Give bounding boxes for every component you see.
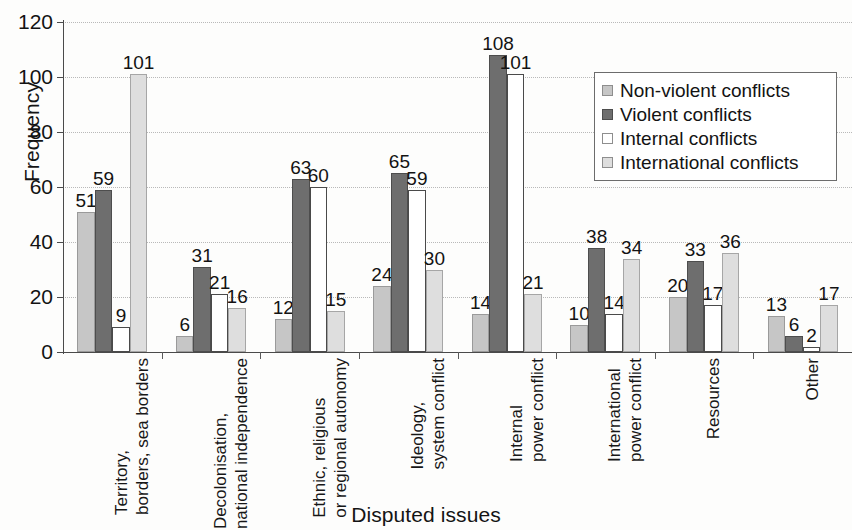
bar [507,74,525,352]
bar [112,327,130,352]
bar-value-label: 13 [759,295,795,314]
bar [704,305,722,352]
x-category-label: Internalpower conflict [458,358,557,508]
legend-swatch-icon [602,109,613,120]
x-category-label-text: Ideology,system conflict [408,358,449,469]
y-tick-label: 20 [0,286,53,307]
bar [605,314,623,353]
bar [391,173,409,352]
bar [524,294,542,352]
x-category-label: Territory,borders, sea borders [63,358,162,508]
bar [130,74,148,352]
bar [228,308,246,352]
y-tick-label: 120 [0,11,53,32]
bar-value-label: 31 [184,246,220,265]
legend-swatch-icon [602,157,613,168]
bar [310,187,328,352]
bar-value-label: 108 [480,34,516,53]
legend-label: Internal conflicts [620,129,757,148]
bar [292,179,310,352]
bar [327,311,345,352]
x-axis-title: Disputed issues [0,503,852,527]
bar [623,259,641,353]
x-category-label-text: Territory,borders, sea borders [112,358,153,515]
legend-swatch-icon [602,133,613,144]
bar [669,297,687,352]
bar-value-label: 101 [498,53,534,72]
bar-value-label: 21 [515,273,551,292]
legend-label: International conflicts [620,153,799,172]
x-category-label: Internationalpower conflict [556,358,655,508]
bar [687,261,705,352]
x-category-label-text: Ethnic, religiousor regional autonomy [310,358,351,518]
y-tick-label: 100 [0,66,53,87]
bar [408,190,426,352]
bar-value-label: 59 [86,169,122,188]
gridline [63,187,852,188]
legend-item[interactable]: Violent conflicts [602,102,830,126]
x-category-label: Ethnic, religiousor regional autonomy [260,358,359,508]
x-category-label-text: Internalpower conflict [507,358,548,462]
bar-value-label: 30 [417,249,453,268]
legend-label: Violent conflicts [620,105,752,124]
bar [77,212,95,352]
bar-value-label: 15 [318,290,354,309]
bar [570,325,588,353]
bar-value-label: 34 [614,238,650,257]
legend: Non-violent conflictsViolent conflictsIn… [594,72,837,181]
bar [426,270,444,353]
bar-value-label: 60 [301,166,337,185]
bar [489,55,507,352]
legend-item[interactable]: International conflicts [602,150,830,174]
x-category-label-text: Internationalpower conflict [605,358,646,462]
bar-value-label: 101 [121,53,157,72]
gridline [63,22,852,23]
bar-value-label: 16 [219,287,255,306]
y-axis-line [63,20,64,354]
bar [820,305,838,352]
x-category-label-text: Other [803,358,824,401]
y-tick-label: 0 [0,341,53,362]
bar-value-label: 36 [713,232,749,251]
y-tick-label: 60 [0,176,53,197]
x-category-label: Decolonisation,national independence [162,358,261,508]
x-category-label-text: Resources [704,358,725,439]
x-category-label: Ideology,system conflict [359,358,458,508]
y-tick-label: 40 [0,231,53,252]
bar [95,190,113,352]
bar [803,347,821,353]
legend-item[interactable]: Non-violent conflicts [602,78,830,102]
x-category-label: Other [753,358,852,508]
bar-value-label: 38 [579,227,615,246]
bar [275,319,293,352]
bar-value-label: 17 [811,284,847,303]
bar-value-label: 59 [399,169,435,188]
legend-swatch-icon [602,85,613,96]
bar [472,314,490,353]
legend-label: Non-violent conflicts [620,81,790,100]
bar [722,253,740,352]
x-category-label: Resources [655,358,754,508]
bar-chart: Frequency 020406080100120 51599101631211… [0,0,852,530]
y-tick-label: 80 [0,121,53,142]
legend-item[interactable]: Internal conflicts [602,126,830,150]
bar [373,286,391,352]
bar [176,336,194,353]
bar-value-label: 33 [678,240,714,259]
